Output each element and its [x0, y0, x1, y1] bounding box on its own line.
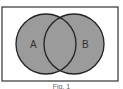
set-b-label: B [82, 39, 89, 50]
set-a-label: A [30, 39, 37, 50]
venn-diagram: A B [0, 0, 123, 89]
figure-caption: Fig. 1 [0, 83, 123, 89]
